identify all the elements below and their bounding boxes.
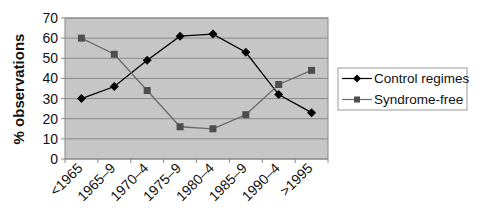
legend: Control regimes Syndrome-free xyxy=(338,68,470,110)
y-tick-label: 20 xyxy=(42,111,58,127)
data-point xyxy=(177,123,184,130)
data-point xyxy=(78,35,85,42)
data-point xyxy=(308,67,315,74)
y-tick-label: 40 xyxy=(42,70,58,86)
y-axis-title: % observations xyxy=(10,34,27,145)
line-chart: 010203040506070 <19651965–91970–41975–91… xyxy=(0,0,490,220)
data-point xyxy=(209,125,216,132)
y-tick-label: 60 xyxy=(42,30,58,46)
data-point xyxy=(111,51,118,58)
y-tick-label: 30 xyxy=(42,91,58,107)
legend-label: Syndrome-free xyxy=(374,92,463,107)
y-tick-label: 10 xyxy=(42,131,58,147)
plot-area xyxy=(65,18,328,159)
square-marker-icon xyxy=(354,97,360,103)
x-tick-label: >1995 xyxy=(277,160,316,199)
y-tick-label: 70 xyxy=(42,10,58,26)
data-point xyxy=(242,111,249,118)
y-tick-label: 50 xyxy=(42,50,58,66)
data-point xyxy=(275,81,282,88)
x-axis-ticks: <19651965–91970–41975–91980–41985–91990–… xyxy=(46,159,328,204)
y-axis-ticks: 010203040506070 xyxy=(42,10,65,167)
y-tick-label: 0 xyxy=(50,151,58,167)
data-point xyxy=(144,87,151,94)
legend-label: Control regimes xyxy=(374,71,470,86)
